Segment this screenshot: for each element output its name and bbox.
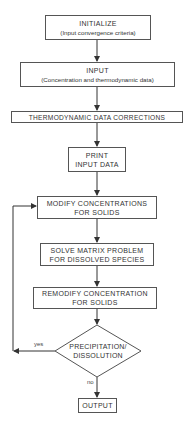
- modify-box: MODIFY CONCENTRATIONS FOR SOLIDS: [37, 196, 157, 219]
- decision-diamond: PRECIPITATION/ DISSOLUTION: [55, 342, 141, 360]
- print-box: PRINT INPUT DATA: [68, 147, 126, 172]
- decision-line1: PRECIPITATION/: [55, 342, 141, 351]
- input-title: INPUT: [86, 66, 109, 75]
- remodify-line1: REMODIFY CONCENTRATION: [42, 289, 148, 298]
- thermo-title: THERMODYNAMIC DATA CORRECTIONS: [29, 113, 166, 122]
- no-label: no: [87, 379, 94, 385]
- input-subtitle: (Concentration and thermodynamic data): [41, 75, 153, 84]
- decision-line2: DISSOLUTION: [55, 351, 141, 360]
- thermo-box: THERMODYNAMIC DATA CORRECTIONS: [11, 111, 183, 123]
- initialize-subtitle: (Input convergence criteria): [60, 28, 135, 37]
- modify-line1: MODIFY CONCENTRATIONS: [47, 199, 148, 208]
- output-title: OUTPUT: [82, 401, 113, 410]
- remodify-box: REMODIFY CONCENTRATION FOR SOLIDS: [33, 287, 157, 309]
- output-box: OUTPUT: [78, 398, 117, 413]
- solve-line2: FOR DISSOLVED SPECIES: [50, 255, 145, 264]
- initialize-title: INITIALIZE: [79, 19, 117, 28]
- print-line1: PRINT: [86, 151, 109, 160]
- modify-line2: FOR SOLIDS: [74, 208, 119, 217]
- remodify-line2: FOR SOLIDS: [72, 298, 117, 307]
- input-box: INPUT (Concentration and thermodynamic d…: [20, 62, 175, 87]
- solve-box: SOLVE MATRIX PROBLEM FOR DISSOLVED SPECI…: [40, 243, 154, 266]
- print-line2: INPUT DATA: [75, 160, 118, 169]
- solve-line1: SOLVE MATRIX PROBLEM: [51, 246, 144, 255]
- yes-label: yes: [34, 341, 43, 347]
- initialize-box: INITIALIZE (Input convergence criteria): [45, 15, 151, 40]
